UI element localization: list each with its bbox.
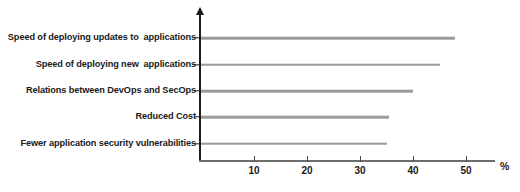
bar (201, 116, 389, 119)
bar (201, 142, 387, 145)
x-axis-tick-label: 50 (460, 166, 471, 176)
x-axis-tick (466, 156, 467, 162)
bar (201, 63, 440, 66)
y-axis-tick (194, 143, 200, 144)
x-axis-tick (360, 156, 361, 162)
x-axis-tick (254, 156, 255, 162)
x-axis-tick (413, 156, 414, 162)
y-axis-tick (194, 116, 200, 117)
x-axis-tick (307, 156, 308, 162)
y-axis-arrow-icon (196, 7, 204, 15)
category-label: Speed of deploying updates to applicatio… (8, 33, 196, 42)
x-axis-tick-label: 20 (301, 166, 312, 176)
bar (201, 90, 413, 93)
y-axis-tick (194, 90, 200, 91)
x-axis-tick-label: 40 (407, 166, 418, 176)
category-label: Speed of deploying new applications (36, 60, 196, 69)
horizontal-bar-chart: % Speed of deploying updates to applicat… (0, 0, 520, 192)
category-label: Reduced Cost (135, 112, 196, 121)
y-axis-tick (194, 64, 200, 65)
x-axis-tick-label: 10 (248, 166, 259, 176)
bar (201, 37, 455, 40)
category-label: Fewer application security vulnerabiliti… (20, 139, 196, 148)
x-axis-line (199, 160, 495, 162)
x-axis-tick-label: 30 (354, 166, 365, 176)
y-axis-tick (194, 37, 200, 38)
x-axis-unit-label: % (500, 161, 509, 172)
category-label: Relations between DevOps and SecOps (26, 86, 196, 95)
